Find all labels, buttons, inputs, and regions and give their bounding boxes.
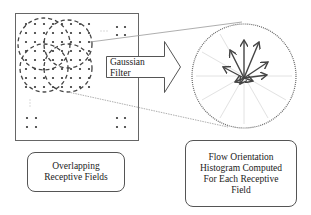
arrow-label-line1: Gaussian xyxy=(110,57,145,67)
receptive-field-circles xyxy=(18,18,92,92)
overlapping-receptive-fields-box: Overlapping Receptive Fields xyxy=(27,152,125,192)
right-caption-line1: Flow Orientation xyxy=(200,152,282,163)
left-caption-line2: Receptive Fields xyxy=(44,172,108,183)
flow-orientation-histogram-box: Flow Orientation Histogram Computed For … xyxy=(185,140,297,207)
right-caption-line4: Field xyxy=(200,185,282,196)
left-caption-line1: Overlapping xyxy=(44,161,108,172)
pixel-grid xyxy=(25,23,90,88)
gaussian-filter-label: Gaussian Filter xyxy=(110,57,145,79)
right-caption-line2: Histogram Computed xyxy=(200,163,282,174)
right-caption-line3: For Each Receptive xyxy=(200,174,282,185)
arrow-label-line2: Filter xyxy=(110,68,131,78)
